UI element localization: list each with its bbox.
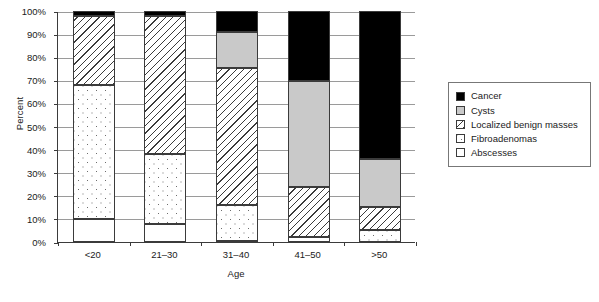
x-tick-label: 21–30 bbox=[129, 249, 199, 260]
bar-segment bbox=[359, 207, 401, 230]
bar-segment bbox=[359, 230, 401, 242]
x-tick-mark bbox=[201, 242, 202, 246]
x-tick-label: >50 bbox=[344, 249, 414, 260]
y-tick-label: 80% bbox=[6, 53, 46, 63]
x-tick-mark bbox=[344, 242, 345, 246]
y-tick-mark bbox=[54, 150, 58, 151]
y-tick-label: 90% bbox=[6, 30, 46, 40]
y-tick-mark bbox=[54, 12, 58, 13]
x-tick-label: 31–40 bbox=[201, 249, 271, 260]
legend-label: Cancer bbox=[471, 91, 502, 101]
y-tick-mark bbox=[54, 104, 58, 105]
x-tick-label: 41–50 bbox=[273, 249, 343, 260]
legend-label: Localized benign masses bbox=[471, 120, 578, 130]
legend-label: Abscesses bbox=[471, 148, 517, 158]
legend-swatch-icon bbox=[456, 134, 465, 143]
bar-segment bbox=[359, 159, 401, 208]
bar-segment bbox=[216, 68, 258, 205]
stacked-bar-chart: 0%10%20%30%40%50%60%70%80%90%100% Percen… bbox=[0, 0, 599, 302]
bar-41-50 bbox=[288, 12, 330, 242]
bar-segment bbox=[288, 187, 330, 238]
y-tick-label: 50% bbox=[6, 123, 46, 133]
legend-swatch-icon bbox=[456, 148, 465, 157]
y-tick-label: 70% bbox=[6, 77, 46, 87]
bar-segment bbox=[216, 205, 258, 241]
legend-item: Abscesses bbox=[456, 146, 583, 160]
bar-segment bbox=[288, 11, 330, 81]
bar-50 bbox=[359, 12, 401, 242]
bar-segment bbox=[73, 16, 115, 85]
y-tick-mark bbox=[54, 81, 58, 82]
y-axis-title: Percent bbox=[14, 74, 25, 154]
bar-20 bbox=[73, 12, 115, 242]
y-tick-label: 20% bbox=[6, 192, 46, 202]
y-tick-label: 60% bbox=[6, 100, 46, 110]
bar-segment bbox=[216, 11, 258, 32]
bar-segment bbox=[73, 219, 115, 242]
y-tick-mark bbox=[54, 173, 58, 174]
x-tick-mark bbox=[273, 242, 274, 246]
y-tick-mark bbox=[54, 58, 58, 59]
bar-segment bbox=[359, 11, 401, 159]
y-tick-mark bbox=[54, 219, 58, 220]
bar-segment bbox=[144, 16, 186, 155]
bar-31-40 bbox=[216, 12, 258, 242]
bar-segment bbox=[73, 11, 115, 16]
chart-legend: CancerCystsLocalized benign massesFibroa… bbox=[448, 82, 591, 167]
bar-segment bbox=[288, 81, 330, 186]
x-axis-title: Age bbox=[57, 268, 415, 279]
plot-area bbox=[57, 12, 415, 243]
y-tick-label: 40% bbox=[6, 146, 46, 156]
bar-21-30 bbox=[144, 12, 186, 242]
y-tick-label: 100% bbox=[6, 7, 46, 17]
x-tick-mark bbox=[130, 242, 131, 246]
x-tick-mark bbox=[416, 242, 417, 246]
bar-segment bbox=[73, 85, 115, 219]
bar-segment bbox=[288, 237, 330, 242]
legend-item: Cysts bbox=[456, 103, 583, 117]
legend-swatch-icon bbox=[456, 92, 465, 101]
y-tick-mark bbox=[54, 196, 58, 197]
x-tick-label: <20 bbox=[58, 249, 128, 260]
bar-segment bbox=[144, 224, 186, 242]
legend-item: Localized benign masses bbox=[456, 117, 583, 131]
x-tick-mark bbox=[58, 242, 59, 246]
bar-segment bbox=[144, 154, 186, 223]
y-tick-label: 10% bbox=[6, 215, 46, 225]
legend-item: Cancer bbox=[456, 89, 583, 103]
bar-segment bbox=[216, 32, 258, 68]
y-tick-mark bbox=[54, 35, 58, 36]
legend-label: Cysts bbox=[471, 106, 495, 116]
y-tick-mark bbox=[54, 127, 58, 128]
bar-segment bbox=[144, 11, 186, 16]
legend-swatch-icon bbox=[456, 106, 465, 115]
y-tick-label: 30% bbox=[6, 169, 46, 179]
legend-label: Fibroadenomas bbox=[471, 134, 537, 144]
legend-swatch-icon bbox=[456, 120, 465, 129]
y-tick-label: 0% bbox=[6, 238, 46, 248]
legend-item: Fibroadenomas bbox=[456, 132, 583, 146]
